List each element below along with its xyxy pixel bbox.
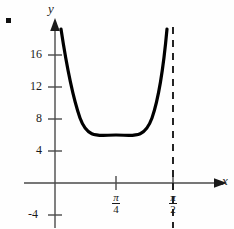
fraction-numerator: π — [111, 192, 121, 203]
curve-path — [61, 29, 167, 135]
x-tick-label-pi-over-2: π 2 — [160, 192, 186, 215]
fraction-pi-over-4: π 4 — [111, 192, 121, 215]
y-tick-label-4: 4 — [14, 143, 42, 158]
y-tick-label-minus-4: -4 — [10, 207, 38, 222]
fraction-numerator: π — [168, 192, 178, 203]
graph-figure: y x 16 12 8 4 -4 π 4 π 2 — [0, 0, 234, 229]
x-axis-label: x — [222, 173, 228, 189]
y-tick-label-16: 16 — [14, 47, 42, 62]
fraction-denominator: 4 — [111, 204, 121, 215]
fraction-pi-over-2: π 2 — [168, 192, 178, 215]
x-tick-label-pi-over-4: π 4 — [103, 192, 129, 215]
y-axis-label: y — [48, 1, 54, 17]
y-axis-arrowhead — [50, 18, 60, 31]
y-tick-label-8: 8 — [14, 111, 42, 126]
fraction-denominator: 2 — [168, 204, 178, 215]
y-tick-label-12: 12 — [14, 79, 42, 94]
